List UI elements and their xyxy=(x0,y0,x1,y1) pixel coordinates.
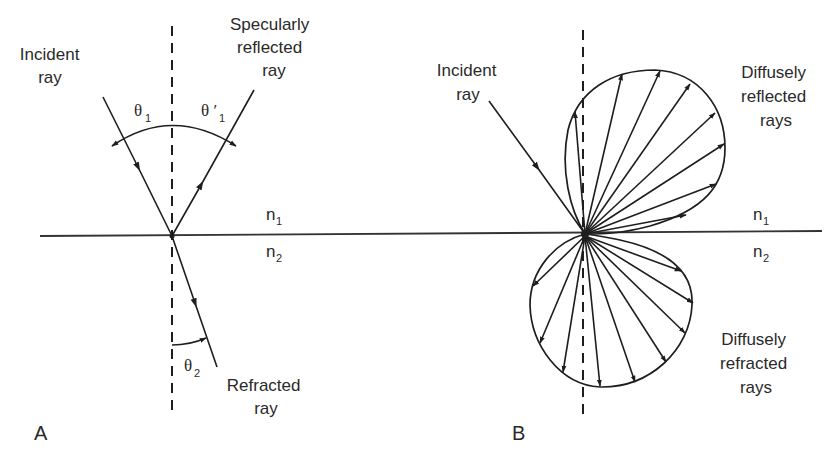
interface-surface-line xyxy=(40,231,822,236)
n2-label-b: n 2 xyxy=(753,242,769,264)
theta2-label: θ 2 xyxy=(184,356,200,379)
n1-label-a: n 1 xyxy=(266,205,282,227)
svg-text:2: 2 xyxy=(763,252,769,264)
incident-label-a: Incident ray xyxy=(20,45,84,87)
svg-text:1: 1 xyxy=(145,112,151,124)
panel-a: Incident ray Specularly reflected ray Re… xyxy=(20,15,314,444)
incident-label-b: Incident ray xyxy=(437,61,501,104)
svg-text:n: n xyxy=(753,242,762,261)
svg-text:1: 1 xyxy=(763,215,769,227)
reflection-refraction-diagram: Incident ray Specularly reflected ray Re… xyxy=(0,0,839,455)
theta2-arc xyxy=(172,338,206,345)
svg-text:2: 2 xyxy=(276,252,282,264)
panel-label-b: B xyxy=(512,422,525,444)
theta1-prime-label: θ ′ 1 xyxy=(201,101,225,124)
incidence-point-a xyxy=(170,234,175,239)
svg-text:1: 1 xyxy=(276,215,282,227)
refracted-label-b: Diffusely refracted rays xyxy=(720,330,792,397)
reflected-label-a: Specularly reflected ray xyxy=(230,15,314,80)
n2-label-a: n 2 xyxy=(266,242,282,264)
svg-text:2: 2 xyxy=(194,367,200,379)
diffuse-reflection-lobe xyxy=(565,70,725,234)
svg-text:n: n xyxy=(753,205,762,224)
panel-b: Incident ray Diffusely reflected rays Di… xyxy=(437,30,811,444)
theta1-label: θ 1 xyxy=(134,101,151,124)
reflected-label-b: Diffusely reflected rays xyxy=(741,63,811,130)
refracted-ray-a xyxy=(172,236,217,367)
diffuse-reflected-rays xyxy=(575,71,724,234)
refracted-label-a: Refracted ray xyxy=(227,376,305,418)
incidence-point-b xyxy=(581,230,589,238)
theta1-arc xyxy=(112,126,236,147)
svg-text:θ ′: θ ′ xyxy=(201,101,217,120)
panel-label-a: A xyxy=(34,422,48,444)
svg-text:1: 1 xyxy=(219,112,225,124)
svg-text:n: n xyxy=(266,242,275,261)
svg-text:θ: θ xyxy=(184,356,192,375)
svg-text:n: n xyxy=(266,205,275,224)
svg-text:θ: θ xyxy=(134,101,142,120)
n1-label-b: n 1 xyxy=(753,205,769,227)
